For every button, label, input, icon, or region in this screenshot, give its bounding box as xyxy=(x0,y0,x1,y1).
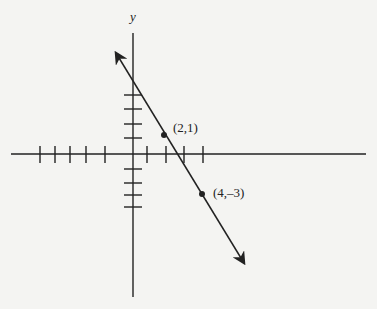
point-2-1 xyxy=(161,132,167,138)
y-axis-label: y xyxy=(128,9,136,24)
point-label-2-1: (2,1) xyxy=(173,120,198,135)
point-4-neg3 xyxy=(199,191,205,197)
plotted-line xyxy=(116,53,244,263)
point-label-4-neg3: (4,–3) xyxy=(213,185,244,200)
coordinate-plane: y (2,1) (4,–3) xyxy=(0,0,377,309)
